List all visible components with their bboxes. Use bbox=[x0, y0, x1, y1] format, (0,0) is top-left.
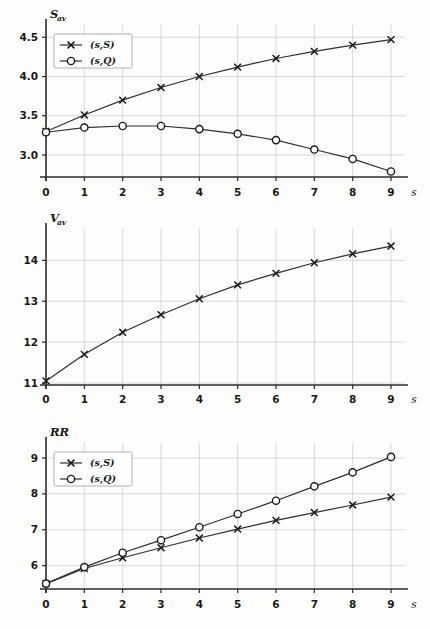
x-tick-label: 6 bbox=[272, 393, 279, 405]
legend-label: (s,S) bbox=[90, 457, 115, 469]
y-axis-label-subscript: av bbox=[57, 218, 67, 227]
y-tick-label: 9 bbox=[31, 452, 38, 464]
y-tick-label: 13 bbox=[23, 295, 38, 307]
x-tick-label: 8 bbox=[349, 598, 356, 610]
legend: (s,S)(s,Q) bbox=[54, 34, 132, 68]
x-tick-label: 0 bbox=[42, 598, 49, 610]
chart-s-av: 3.03.54.04.50123456789sSav(s,S)(s,Q) bbox=[0, 0, 430, 210]
x-tick-label: 6 bbox=[272, 186, 279, 198]
data-point-marker-o bbox=[196, 524, 203, 531]
x-tick-label: 0 bbox=[42, 393, 49, 405]
data-point-marker-o bbox=[234, 130, 241, 137]
chart-v-av: 111213140123456789sVav bbox=[0, 207, 430, 407]
x-tick-label: 1 bbox=[81, 598, 88, 610]
data-point-marker-o bbox=[311, 483, 318, 490]
x-tick-label: 1 bbox=[81, 186, 88, 198]
data-point-marker-o bbox=[387, 168, 394, 175]
data-point-marker-o bbox=[387, 453, 394, 460]
series-line-2 bbox=[46, 126, 391, 172]
y-tick-label: 4.5 bbox=[19, 31, 38, 43]
data-point-marker-o bbox=[81, 564, 88, 571]
x-tick-label: 4 bbox=[196, 186, 203, 198]
x-axis-label: s bbox=[411, 598, 417, 610]
data-point-marker-o bbox=[349, 469, 356, 476]
y-tick-label: 6 bbox=[31, 559, 38, 571]
y-tick-label: 11 bbox=[23, 377, 38, 389]
data-point-marker-o bbox=[234, 510, 241, 517]
x-tick-label: 5 bbox=[234, 598, 241, 610]
series-line-1 bbox=[46, 497, 391, 584]
x-tick-label: 3 bbox=[157, 393, 164, 405]
x-tick-label: 7 bbox=[311, 598, 318, 610]
x-tick-label: 7 bbox=[311, 186, 318, 198]
x-axis-label: s bbox=[411, 186, 417, 198]
data-point-marker-o bbox=[157, 122, 164, 129]
data-point-marker-o bbox=[119, 549, 126, 556]
chart-rr-canvas: 67890123456789sRR(s,S)(s,Q) bbox=[0, 409, 430, 629]
x-tick-label: 8 bbox=[349, 186, 356, 198]
x-tick-label: 9 bbox=[387, 186, 394, 198]
chart-s-av-canvas: 3.03.54.04.50123456789sSav(s,S)(s,Q) bbox=[0, 0, 430, 210]
legend-label: (s,Q) bbox=[90, 55, 116, 67]
y-tick-label: 4.0 bbox=[19, 70, 38, 82]
x-tick-label: 2 bbox=[119, 598, 126, 610]
legend-label: (s,Q) bbox=[90, 473, 116, 485]
y-tick-label: 14 bbox=[23, 254, 38, 266]
legend-marker-o bbox=[67, 475, 74, 482]
x-tick-label: 0 bbox=[42, 186, 49, 198]
x-tick-label: 9 bbox=[387, 598, 394, 610]
data-point-marker-o bbox=[272, 497, 279, 504]
y-tick-label: 8 bbox=[31, 487, 38, 499]
y-tick-label: 3.5 bbox=[19, 109, 38, 121]
x-tick-label: 4 bbox=[196, 393, 203, 405]
data-point-marker-o bbox=[119, 122, 126, 129]
x-axis-label: s bbox=[411, 393, 417, 405]
data-point-marker-o bbox=[157, 537, 164, 544]
data-point-marker-o bbox=[42, 129, 49, 136]
x-tick-label: 3 bbox=[157, 186, 164, 198]
x-tick-label: 5 bbox=[234, 393, 241, 405]
x-tick-label: 7 bbox=[311, 393, 318, 405]
y-tick-label: 7 bbox=[31, 523, 38, 535]
legend-marker-o bbox=[67, 57, 74, 64]
y-tick-label: 3.0 bbox=[19, 149, 38, 161]
x-tick-label: 6 bbox=[272, 598, 279, 610]
data-point-marker-o bbox=[272, 137, 279, 144]
x-tick-label: 9 bbox=[387, 393, 394, 405]
x-tick-label: 1 bbox=[81, 393, 88, 405]
series-line-1 bbox=[46, 246, 391, 381]
x-tick-label: 3 bbox=[157, 598, 164, 610]
y-tick-label: 12 bbox=[23, 336, 38, 348]
x-tick-label: 4 bbox=[196, 598, 203, 610]
legend-label: (s,S) bbox=[90, 39, 115, 51]
x-tick-label: 2 bbox=[119, 186, 126, 198]
data-point-marker-o bbox=[311, 146, 318, 153]
legend: (s,S)(s,Q) bbox=[54, 452, 132, 486]
data-point-marker-o bbox=[81, 124, 88, 131]
data-point-marker-o bbox=[349, 155, 356, 162]
x-tick-label: 8 bbox=[349, 393, 356, 405]
figure-page: 3.03.54.04.50123456789sSav(s,S)(s,Q) 111… bbox=[0, 0, 430, 629]
chart-rr: 67890123456789sRR(s,S)(s,Q) bbox=[0, 409, 430, 629]
y-axis-label: RR bbox=[49, 425, 69, 439]
y-axis-label-subscript: av bbox=[57, 14, 67, 23]
data-point-marker-o bbox=[196, 126, 203, 133]
data-point-marker-o bbox=[42, 580, 49, 587]
chart-v-av-canvas: 111213140123456789sVav bbox=[0, 207, 430, 407]
x-tick-label: 2 bbox=[119, 393, 126, 405]
x-tick-label: 5 bbox=[234, 186, 241, 198]
